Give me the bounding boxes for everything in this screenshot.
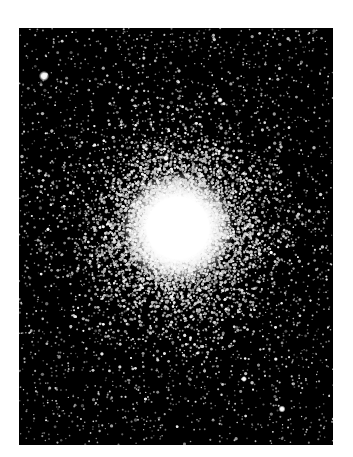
starfield-canvas [19,28,333,445]
star-cluster-image [19,28,333,445]
